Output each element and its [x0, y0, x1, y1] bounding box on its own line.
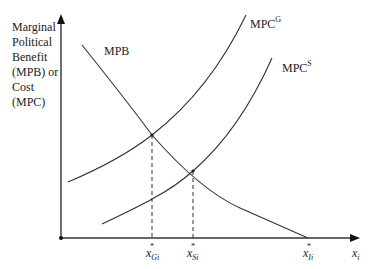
x-marker-gi: x*Gi — [146, 246, 159, 262]
diagram-canvas — [0, 0, 372, 269]
x-axis-label: xi — [352, 246, 360, 262]
mpc-s-curve — [102, 58, 272, 224]
origin-dot — [59, 236, 63, 240]
mpc-g-label: MPCG — [250, 16, 281, 32]
mpb-curve — [82, 45, 308, 238]
mpb-label: MPB — [104, 44, 129, 59]
mpc-g-curve — [68, 15, 246, 182]
x-axis-arrow-icon — [350, 234, 360, 242]
x-marker-ii: x*Ii — [303, 246, 313, 262]
mpc-s-label: MPCS — [282, 60, 312, 76]
y-axis-arrow-icon — [57, 14, 65, 24]
x-marker-si: x*Si — [187, 246, 199, 262]
